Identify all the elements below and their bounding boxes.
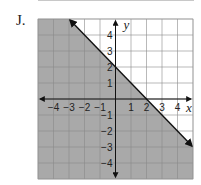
y-tick-label: 4 xyxy=(107,30,113,41)
y-tick-label: −2 xyxy=(101,126,113,137)
x-tick-label: −4 xyxy=(48,102,60,113)
y-tick-label: 1 xyxy=(107,78,113,89)
x-tick-label: −2 xyxy=(79,102,91,113)
x-tick-label: 4 xyxy=(175,102,181,113)
x-tick-label: 3 xyxy=(159,102,165,113)
x-tick-label: 2 xyxy=(144,102,150,113)
x-tick-label: −3 xyxy=(63,102,75,113)
y-tick-label: −3 xyxy=(101,142,113,153)
y-tick-label: 2 xyxy=(107,62,113,73)
y-tick-label: −4 xyxy=(101,158,113,169)
x-axis-label: x xyxy=(185,100,192,115)
x-tick-label: 1 xyxy=(128,102,134,113)
inequality-graph: −4−3−2−112344321−1−2−3−4xy xyxy=(0,0,201,185)
y-tick-label: −1 xyxy=(101,110,113,121)
y-tick-label: 3 xyxy=(107,46,113,57)
